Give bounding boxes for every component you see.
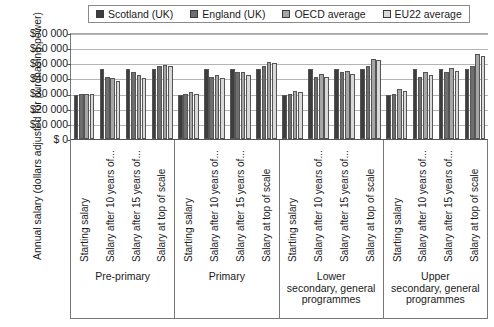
category-label-cell: Salary after 15 years of...: [123, 140, 149, 266]
bar: [163, 65, 168, 139]
category-label-cell: Salary after 10 years of...: [410, 140, 436, 266]
category-label: Starting salary: [78, 198, 89, 262]
category-label: Starting salary: [391, 198, 402, 262]
bar-group: [71, 34, 175, 139]
category-label: Salary at top of scale: [469, 169, 480, 262]
bar: [314, 77, 319, 139]
bar: [444, 72, 449, 139]
category-label-cell: Salary after 10 years of...: [305, 140, 331, 266]
bar: [282, 95, 287, 139]
bar: [110, 78, 115, 139]
group-label: Pre-primary: [71, 266, 175, 319]
bar: [168, 66, 173, 139]
bar: [481, 56, 486, 139]
bar-category: [410, 34, 436, 139]
bar: [449, 68, 454, 139]
bar: [204, 69, 209, 139]
bar: [360, 69, 365, 139]
bar: [272, 63, 277, 139]
bar: [350, 74, 355, 139]
category-label-cell: Salary at top of scale: [148, 140, 174, 266]
bar: [142, 78, 147, 139]
bar: [262, 66, 267, 139]
category-label: Salary after 15 years of...: [234, 150, 245, 262]
bar: [470, 66, 475, 139]
bar: [386, 95, 391, 139]
bar: [183, 94, 188, 139]
legend-swatch-oecd: [282, 10, 290, 18]
y-axis-tick-label: $10 000: [20, 119, 68, 130]
category-label-cell: Salary after 15 years of...: [435, 140, 461, 266]
bar-category: [175, 34, 201, 139]
bar-category: [123, 34, 149, 139]
y-axis-tick-label: $ 0: [20, 134, 68, 145]
category-label-group: Starting salarySalary after 10 years of.…: [175, 140, 279, 266]
bar: [345, 71, 350, 139]
group-label: Lowersecondary, generalprogrammes: [280, 266, 384, 319]
legend-item-england: England (UK): [190, 9, 265, 20]
category-label-cell: Salary after 15 years of...: [227, 140, 253, 266]
bar: [246, 75, 251, 139]
bar-category: [436, 34, 462, 139]
category-label-cell: Salary at top of scale: [461, 140, 487, 266]
y-axis-tick-labels: $70 000$60 000$50 000$40 000$30 000$20 0…: [20, 26, 68, 146]
bar: [418, 77, 423, 139]
bar-category: [358, 34, 384, 139]
legend-swatch-eu22: [383, 10, 391, 18]
category-label-cell: Starting salary: [384, 140, 410, 266]
bar-category: [97, 34, 123, 139]
category-label: Starting salary: [287, 198, 298, 262]
category-label: Salary after 10 years of...: [417, 150, 428, 262]
y-axis-tick-label: $30 000: [20, 88, 68, 99]
bar: [74, 95, 79, 139]
chart-legend: Scotland (UK) England (UK) OECD average …: [88, 5, 470, 23]
bar-category: [462, 34, 488, 139]
bar-category: [71, 34, 97, 139]
bar: [131, 72, 136, 139]
bar: [209, 77, 214, 139]
bar: [334, 69, 339, 139]
category-label-cell: Starting salary: [71, 140, 97, 266]
bar: [475, 54, 480, 139]
bar-category: [227, 34, 253, 139]
category-label: Starting salary: [183, 198, 194, 262]
bar-category: [384, 34, 410, 139]
category-label-cell: Salary after 15 years of...: [331, 140, 357, 266]
bar: [157, 66, 162, 139]
bar: [340, 72, 345, 139]
category-label-cell: Starting salary: [280, 140, 306, 266]
y-axis-tick-label: $50 000: [20, 58, 68, 69]
bar: [90, 94, 95, 139]
bar: [241, 72, 246, 139]
bar-category: [201, 34, 227, 139]
bar: [152, 69, 157, 139]
bar: [397, 89, 402, 139]
legend-label-england: England (UK): [202, 9, 265, 20]
legend-label-oecd: OECD average: [294, 9, 365, 20]
bar: [392, 94, 397, 139]
bar: [267, 62, 272, 139]
legend-item-scotland: Scotland (UK): [96, 9, 173, 20]
bar: [79, 94, 84, 139]
bar: [429, 75, 434, 139]
bar: [413, 69, 418, 139]
x-axis-group-labels: Pre-primaryPrimaryLowersecondary, genera…: [71, 266, 487, 319]
x-axis-label-area: Starting salarySalary after 10 years of.…: [70, 139, 488, 319]
category-label: Salary after 10 years of...: [104, 150, 115, 262]
category-label-group: Starting salarySalary after 10 years of.…: [71, 140, 175, 266]
bar: [137, 75, 142, 139]
group-label: Primary: [175, 266, 279, 319]
bar: [215, 75, 220, 139]
bar-group: [280, 34, 384, 139]
legend-item-eu22: EU22 average: [383, 9, 462, 20]
bar: [376, 60, 381, 139]
bar: [256, 69, 261, 139]
category-label: Salary after 15 years of...: [130, 150, 141, 262]
legend-item-oecd: OECD average: [282, 9, 365, 20]
bar: [100, 69, 105, 139]
category-label-group: Starting salarySalary after 10 years of.…: [384, 140, 487, 266]
bar: [84, 94, 89, 139]
group-label: Uppersecondary, generalprogrammes: [384, 266, 487, 319]
category-label-cell: Starting salary: [175, 140, 201, 266]
category-label: Salary after 10 years of...: [313, 150, 324, 262]
